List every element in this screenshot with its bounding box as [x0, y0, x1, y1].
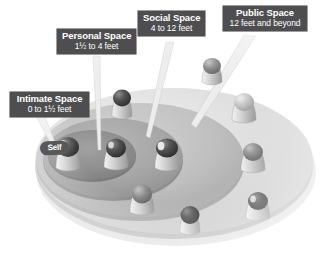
figure-social-top — [202, 58, 222, 85]
callout-public-subtitle: 12 feet and beyond — [228, 19, 302, 28]
figure-personal-top — [112, 90, 132, 120]
callout-personal-title: Personal Space — [62, 31, 131, 41]
figure-social-right — [241, 143, 265, 173]
figure-public-top-right — [232, 93, 256, 123]
figure-personal-bottom — [130, 185, 154, 216]
proxemics-illustration — [0, 0, 327, 261]
callout-social-subtitle: 4 to 12 feet — [143, 24, 200, 33]
self-label-pill[interactable]: Self — [40, 140, 69, 155]
callout-public-space[interactable]: Public Space 12 feet and beyond — [223, 6, 307, 31]
callout-social-title: Social Space — [143, 13, 200, 23]
callout-intimate-subtitle: 0 to 1½ feet — [15, 105, 84, 114]
figure-social-bottom — [180, 206, 200, 235]
figure-intimate-right — [104, 139, 128, 171]
callout-personal-space[interactable]: Personal Space 1½ to 4 feet — [57, 29, 136, 54]
callout-social-space[interactable]: Social Space 4 to 12 feet — [138, 11, 205, 36]
callout-intimate-title: Intimate Space — [15, 94, 84, 104]
diagram-canvas: Intimate Space 0 to 1½ feet Personal Spa… — [0, 0, 327, 261]
callout-public-title: Public Space — [228, 8, 302, 18]
figure-public-right — [246, 192, 270, 221]
figure-personal-right — [155, 139, 179, 172]
callout-personal-subtitle: 1½ to 4 feet — [62, 42, 131, 51]
callout-intimate-space[interactable]: Intimate Space 0 to 1½ feet — [10, 92, 89, 117]
